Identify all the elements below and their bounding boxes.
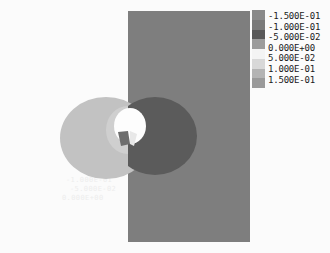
legend-label-5: 1.000E-01 [268,64,320,75]
legend-swatch-4 [252,49,265,59]
legend-swatch-0 [252,10,265,20]
colorbar-labels: -1.500E-01 -1.000E-01 -5.000E-02 0.000E+… [268,10,320,85]
legend-label-0: -1.500E-01 [268,11,320,22]
legend-swatch-7 [252,78,265,88]
legend-label-2: -5.000E-02 [268,32,320,43]
contour-plot-root: -1.000E-01 -5.000E-02 0.000E+00 [0,0,330,253]
legend-label-1: -1.000E-01 [268,22,320,33]
legend: -1.500E-01 -1.000E-01 -5.000E-02 0.000E+… [252,10,320,88]
legend-label-6: 1.500E-01 [268,75,320,86]
legend-swatch-6 [252,69,265,79]
legend-label-3: 0.000E+00 [268,43,320,54]
colorbar-swatches [252,10,265,88]
legend-label-4: 5.000E-02 [268,53,320,64]
legend-swatch-5 [252,59,265,69]
legend-swatch-1 [252,20,265,30]
legend-swatch-3 [252,39,265,49]
legend-swatch-2 [252,30,265,40]
